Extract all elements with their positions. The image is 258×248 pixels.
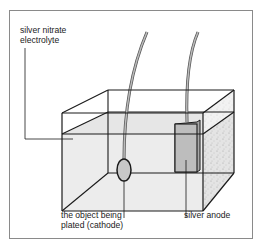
cathode-label-line1: the object being	[61, 210, 123, 220]
cathode-label: the object being plated (cathode)	[61, 210, 123, 230]
electrolyte-label-line1: silver nitrate	[20, 25, 66, 35]
cathode-label-line2: plated (cathode)	[61, 220, 123, 230]
electrolyte-leader-line	[25, 48, 73, 139]
electrolyte-label-line2: electrolyte	[20, 35, 66, 45]
electrolyte-label: silver nitrate electrolyte	[20, 25, 66, 45]
anode-label: silver anode	[184, 210, 230, 220]
